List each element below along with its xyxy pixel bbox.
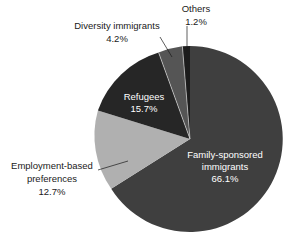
pie-label-family-line2: immigrants (202, 161, 249, 172)
pie-label-diversity-name: Diversity immigrants (74, 20, 160, 31)
pie-label-employment-percent: 12.7% (39, 186, 66, 197)
pie-chart-svg: Family-sponsored immigrants 66.1% Refuge… (0, 0, 297, 239)
pie-chart-figure: Family-sponsored immigrants 66.1% Refuge… (0, 0, 297, 239)
pie-label-diversity-percent: 4.2% (106, 33, 128, 44)
pie-label-others-name: Others (182, 3, 211, 14)
pie-label-employment-line2: preferences (27, 173, 77, 184)
pie-label-family-percent: 66.1% (212, 173, 239, 184)
pie-label-refugees-percent: 15.7% (131, 103, 158, 114)
pie-label-employment-line1: Employment-based (11, 160, 93, 171)
pie-label-refugees-name: Refugees (124, 91, 165, 102)
pie-label-family-line1: Family-sponsored (187, 149, 263, 160)
pie-label-others-percent: 1.2% (185, 16, 207, 27)
